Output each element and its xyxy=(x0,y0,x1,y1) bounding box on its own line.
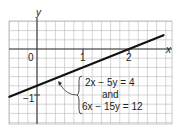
arrowhead-icon xyxy=(58,81,62,86)
equation-2: 6x − 15y = 12 xyxy=(82,101,143,112)
y-tick-label: −1 xyxy=(23,93,35,104)
x-tick-label: 2 xyxy=(126,52,132,63)
equation-connector: and xyxy=(102,89,119,100)
graph: y x 012−1 2x − 5y = 4 and 6x − 15y = 12 xyxy=(0,0,177,132)
x-tick-label: 1 xyxy=(80,52,86,63)
equation-1: 2x − 5y = 4 xyxy=(85,77,135,88)
x-tick-label: 0 xyxy=(28,52,34,63)
y-axis-label: y xyxy=(35,7,42,18)
x-axis-label: x xyxy=(165,44,172,55)
